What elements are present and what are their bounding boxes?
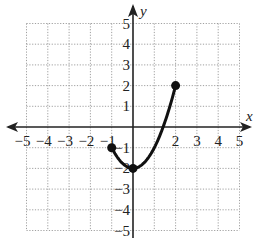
y-tick-label: 5 bbox=[123, 16, 131, 32]
x-tick-label: 5 bbox=[236, 133, 244, 149]
y-tick-label: 4 bbox=[123, 36, 131, 52]
x-tick-label: −4 bbox=[36, 133, 52, 149]
y-tick-label: 3 bbox=[123, 57, 131, 73]
y-tick-label: −3 bbox=[114, 181, 130, 197]
point-marker bbox=[129, 164, 138, 173]
x-tick-label: −3 bbox=[57, 133, 73, 149]
x-tick-label: −2 bbox=[78, 133, 94, 149]
y-tick-label: 1 bbox=[123, 98, 131, 114]
x-tick-label: 2 bbox=[172, 133, 180, 149]
x-tick-label: −5 bbox=[15, 133, 31, 149]
y-tick-label: −5 bbox=[114, 223, 130, 239]
x-tick-label: 3 bbox=[193, 133, 201, 149]
point-marker bbox=[107, 143, 116, 152]
x-tick-label: 4 bbox=[214, 133, 222, 149]
x-axis-label: x bbox=[245, 108, 253, 124]
graph: y x −5−4−3−2−1234554321−1−2−3−4−5 bbox=[0, 0, 257, 239]
y-tick-label: −4 bbox=[114, 202, 130, 218]
point-marker bbox=[171, 81, 180, 90]
y-tick-label: 2 bbox=[123, 78, 131, 94]
y-axis-label: y bbox=[138, 3, 147, 19]
